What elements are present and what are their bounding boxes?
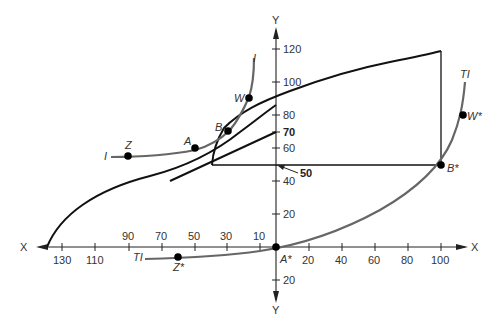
label-A-star: A* [279,253,292,265]
point-A [191,144,199,152]
y-tick-label-70: 70 [283,126,295,138]
y-axis-up-arrow-icon [273,27,279,39]
point-A-star [272,243,280,251]
indifference-curve-I [113,157,195,176]
label-Z: Z [124,139,133,151]
shifted-frontier-curve [212,51,441,165]
x-axis-label-left: X [20,241,28,253]
point-Z-star [174,253,182,261]
label-curve-TI-left: TI [133,251,143,263]
y-tick-label: 60 [283,142,295,154]
label-curve-TI-right: TI [460,68,470,80]
x-tick-label: 30 [220,230,232,242]
y-tick-label: 80 [283,109,295,121]
x-tick-label: 80 [401,254,413,266]
trade-diagram: 50 Z A B W A* B* W* Z* I I TI TI X X Y Y… [0,0,499,324]
y-tick-label: 120 [283,43,301,55]
x-tick-label: 100 [431,254,449,266]
x-tick-label: 40 [335,254,347,266]
label-curve-I-left: I [104,150,107,162]
x-tick-label: 10 [253,230,265,242]
y-axis-label-top: Y [272,14,280,26]
y-axis-down-arrow-icon [273,291,279,303]
label-W-star: W* [467,110,482,122]
x-axis [36,243,468,251]
point-B [224,127,232,135]
label-curve-I-top: I [253,52,256,64]
y-axis-label-bottom: Y [272,304,280,316]
label-W: W [234,92,246,104]
x-tick-label: 110 [86,254,104,266]
point-W [245,94,253,102]
x-tick-label: 50 [188,230,200,242]
y-tick-label: 40 [283,175,295,187]
point-B-star [437,161,445,169]
x-tick-label: 70 [155,230,167,242]
point-Z [124,152,132,160]
x-tick-label: 60 [368,254,380,266]
callout-50-label: 50 [300,167,312,179]
x-tick-label: 20 [302,254,314,266]
y-tick-label: 20 [283,208,295,220]
y-tick-label: 100 [283,76,301,88]
x-tick-label: 90 [122,230,134,242]
label-Z-star: Z* [172,261,185,273]
production-frontier-curve [47,105,276,247]
x-axis-label-right: X [471,241,479,253]
x-axis-left-arrow-icon [36,244,48,250]
y-tick-label: 20 [283,274,295,286]
point-W-star [459,111,467,119]
label-A: A [183,135,191,147]
label-B: B [215,121,222,133]
diagram-canvas: 50 Z A B W A* B* W* Z* I I TI TI X X Y Y… [0,0,499,324]
x-axis-right-arrow-icon [456,244,468,250]
x-tick-label: 130 [53,254,71,266]
label-B-star: B* [447,162,459,174]
indifference-curve-I [111,58,254,157]
